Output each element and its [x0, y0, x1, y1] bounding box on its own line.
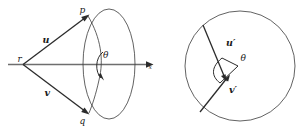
vector-v — [23, 65, 90, 115]
left-diagram: p q r u v θ x — [8, 5, 154, 126]
label-apex-r: r — [18, 54, 23, 64]
label-point-p: p — [80, 5, 86, 15]
wedge-edge-lower — [220, 66, 238, 83]
label-angle-theta-right: θ — [241, 53, 247, 63]
label-vector-u-prime: u′ — [226, 37, 236, 48]
angle-arc-right — [213, 58, 222, 83]
label-vector-u: u — [43, 34, 50, 45]
label-vector-v: v — [45, 87, 51, 98]
figure-canvas: p q r u v θ x — [0, 0, 305, 132]
figure-container: p q r u v θ x — [0, 0, 305, 132]
vector-u-prime — [203, 25, 227, 82]
label-vector-v-prime: v′ — [229, 84, 238, 95]
axis-line — [8, 61, 154, 68]
wedge-edge-upper — [222, 58, 238, 66]
label-point-q: q — [80, 116, 86, 126]
right-diagram: u′ v′ θ — [185, 11, 295, 121]
vector-u — [23, 15, 90, 65]
vector-v-prime — [200, 75, 230, 113]
disc-outline-circle — [185, 11, 295, 121]
label-angle-theta-left: θ — [103, 50, 109, 60]
